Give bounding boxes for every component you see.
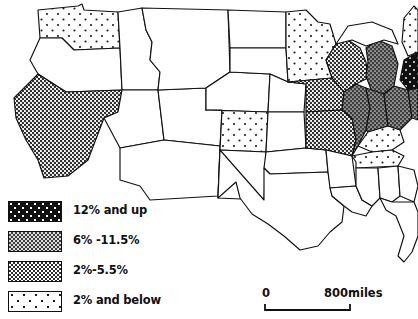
legend-label-2-and-below: 2% and below (73, 295, 161, 307)
state-MI (366, 40, 398, 94)
state-ND (228, 10, 286, 48)
state-KS (266, 112, 306, 152)
state-OK (264, 148, 328, 174)
legend-item-3: 2% and below (8, 288, 198, 314)
legend-label-12-and-up: 12% and up (73, 205, 147, 217)
legend-item-0: 12% and up (8, 198, 198, 224)
scale-label-min: 0 (262, 288, 270, 300)
legend-swatch-2-and-below (8, 291, 62, 312)
scale-rule (264, 304, 362, 312)
legend-swatch-12-and-up (8, 201, 62, 222)
legend-item-1: 6% -11.5% (8, 228, 198, 254)
scale-label-max: 800miles (324, 288, 383, 300)
state-GA (398, 166, 418, 202)
state-NE-coast (402, 6, 418, 56)
scale-bar: 0 800miles (262, 288, 382, 316)
legend-label-2-to-5-5: 2%-5.5% (73, 265, 128, 277)
state-MN (286, 10, 336, 82)
legend: 12% and up 6% -11.5% 2%-5.5% 2% and belo… (8, 198, 198, 318)
legend-swatch-2-to-5-5 (8, 261, 62, 282)
state-TN (352, 150, 404, 168)
legend-item-2: 2%-5.5% (8, 258, 198, 284)
state-FL (380, 198, 418, 262)
state-AL (378, 166, 400, 202)
state-AZ (120, 140, 220, 200)
state-MO (306, 110, 356, 156)
choropleth-figure: 12% and up 6% -11.5% 2%-5.5% 2% and belo… (0, 0, 418, 319)
legend-swatch-6-to-11-5 (8, 231, 62, 252)
state-NY (400, 52, 418, 90)
legend-label-6-to-11-5: 6% -11.5% (73, 235, 139, 247)
